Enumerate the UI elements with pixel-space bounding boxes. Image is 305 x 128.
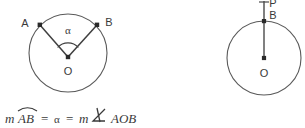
alpha-angle-label: α [65,24,71,36]
angle-symbol-icon [93,108,105,122]
equation-m2: m [79,111,88,126]
geometry-figure-page: A B α O P B O m AB = [0,0,305,128]
radius-ob-line [68,25,97,57]
equation-m1: m [5,111,14,126]
right-point-b-label: B [269,9,276,21]
equation-aob: AOB [110,111,136,126]
equation-alpha: α [54,113,60,125]
right-point-b-dot [262,19,266,23]
point-p-label: P [269,0,276,9]
right-point-o-dot [262,56,266,60]
central-angle-arc-marker [58,43,79,48]
left-circle-diagram: A B α O [21,14,112,92]
right-circle-diagram: P B O [227,0,301,95]
radius-oa-line [40,25,68,57]
equation-arc-ab: AB [17,111,34,126]
point-o-dot [66,55,70,59]
equation-equals-1: = [41,111,48,126]
point-b-dot [95,23,99,27]
point-a-label: A [21,17,29,29]
point-a-dot [38,23,42,27]
equation-line: m AB = α = m AOB [5,108,136,126]
equation-equals-2: = [66,111,73,126]
geometry-figure: A B α O P B O m AB = [0,0,305,128]
right-center-o-label: O [260,67,269,79]
point-b-label: B [105,16,112,28]
left-center-o-label: O [64,65,73,77]
